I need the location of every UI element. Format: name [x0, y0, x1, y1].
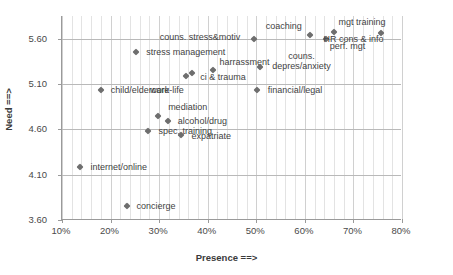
vertical-gridline-minor: [324, 16, 325, 219]
data-point-label: alcohol/drug: [178, 116, 227, 126]
x-axis-tick: [62, 219, 63, 223]
vertical-gridline-minor: [91, 16, 92, 219]
y-axis-tick: [58, 220, 62, 221]
y-axis-tick: [58, 39, 62, 40]
data-point-label: couns. stress&motiv: [160, 32, 241, 42]
x-axis-tick-label: 30%: [138, 226, 178, 236]
y-axis-tick-label: 4.10: [13, 170, 47, 180]
vertical-gridline-minor: [101, 16, 102, 219]
data-point-label: internet/online: [90, 162, 147, 172]
data-point-label: mediation: [168, 102, 207, 112]
x-axis-tick-label: 20%: [90, 226, 130, 236]
x-axis-tick-label: 60%: [284, 226, 324, 236]
vertical-gridline-minor: [276, 16, 277, 219]
data-point-label: HR cons & info: [324, 34, 384, 44]
y-axis-title: Need ==>: [3, 80, 14, 140]
vertical-gridline-minor: [227, 16, 228, 219]
x-axis-tick: [208, 219, 209, 223]
x-axis-tick: [402, 219, 403, 223]
vertical-gridline-minor: [266, 16, 267, 219]
vertical-gridline-minor: [383, 16, 384, 219]
y-axis-tick-label: 4.60: [13, 124, 47, 134]
vertical-gridline-major: [305, 16, 306, 219]
vertical-gridline-major: [256, 16, 257, 219]
vertical-gridline-minor: [81, 16, 82, 219]
data-point-label: couns. depres/anxiety: [272, 51, 331, 71]
y-axis-tick-label: 5.60: [13, 34, 47, 44]
vertical-gridline-major: [111, 16, 112, 219]
vertical-gridline-minor: [72, 16, 73, 219]
y-axis-tick: [58, 175, 62, 176]
data-point-label: ci & trauma: [200, 72, 246, 82]
y-axis-tick: [58, 129, 62, 130]
data-point-label: work-life: [150, 85, 184, 95]
data-point-label: expatriate: [191, 131, 231, 141]
y-axis-tick-label: 3.60: [13, 215, 47, 225]
data-point-label: financial/legal: [268, 85, 323, 95]
x-axis-tick: [111, 219, 112, 223]
x-axis-tick: [256, 219, 257, 223]
x-axis-tick: [159, 219, 160, 223]
vertical-gridline-minor: [373, 16, 374, 219]
horizontal-gridline: [62, 175, 401, 176]
x-axis-tick-label: 50%: [235, 226, 275, 236]
vertical-gridline-minor: [295, 16, 296, 219]
vertical-gridline-minor: [247, 16, 248, 219]
x-axis-tick-label: 70%: [332, 226, 372, 236]
x-axis-tick: [353, 219, 354, 223]
vertical-gridline-major: [402, 16, 403, 219]
vertical-gridline-minor: [237, 16, 238, 219]
scatter-chart: Need ==> Presence ==> 5.605.104.604.103.…: [0, 0, 453, 275]
vertical-gridline-minor: [285, 16, 286, 219]
data-point-label: stress management: [146, 47, 225, 57]
x-axis-tick: [305, 219, 306, 223]
data-point-label: coaching: [266, 21, 302, 31]
vertical-gridline-minor: [130, 16, 131, 219]
x-axis-tick-label: 80%: [381, 226, 421, 236]
vertical-gridline-minor: [392, 16, 393, 219]
vertical-gridline-minor: [140, 16, 141, 219]
vertical-gridline-minor: [315, 16, 316, 219]
vertical-gridline-major: [62, 16, 63, 219]
x-axis-tick-label: 10%: [41, 226, 81, 236]
vertical-gridline-minor: [120, 16, 121, 219]
data-point-label: mgt training: [338, 17, 385, 27]
y-axis-tick-label: 5.10: [13, 79, 47, 89]
data-point-label: concierge: [137, 201, 176, 211]
x-axis-title: Presence ==>: [0, 252, 453, 263]
y-axis-tick: [58, 84, 62, 85]
x-axis-tick-label: 40%: [187, 226, 227, 236]
horizontal-gridline: [62, 129, 401, 130]
